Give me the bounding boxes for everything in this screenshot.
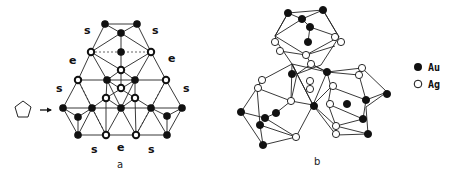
label-e-right: e (168, 52, 175, 65)
legend-label-au: Au (428, 62, 440, 73)
panel-a-atoms (60, 21, 185, 138)
figure: s s e e s s s e s a (0, 0, 457, 177)
legend-label-ag: Ag (428, 79, 440, 90)
label-e-left: e (69, 54, 76, 67)
label-s-bottom-left: s (91, 143, 98, 156)
caption-a: a (117, 159, 123, 170)
legend: Au Ag (414, 62, 440, 90)
label-s-mid-right: s (183, 82, 190, 95)
label-s-mid-left: s (56, 82, 63, 95)
au-symbol-icon (414, 63, 422, 71)
label-s-top-right: s (152, 24, 159, 37)
label-e-bottom: e (117, 141, 124, 154)
label-s-top-left: s (84, 24, 91, 37)
label-s-bottom-right: s (148, 143, 155, 156)
pentagon-icon (15, 101, 31, 117)
caption-b: b (314, 156, 320, 167)
ag-symbol-icon (414, 80, 422, 88)
